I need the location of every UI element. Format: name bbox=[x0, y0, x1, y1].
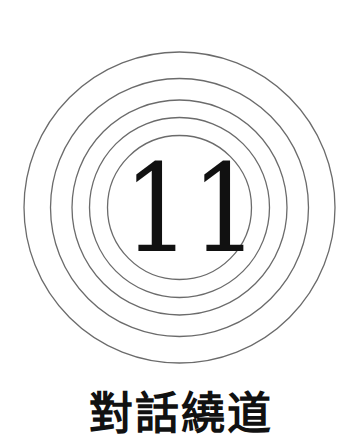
ring-4 bbox=[90, 118, 270, 298]
chapter-title: 對話繞道 bbox=[0, 389, 361, 439]
ring-3 bbox=[72, 100, 287, 315]
ring-5 bbox=[108, 136, 252, 280]
ring-1 bbox=[24, 52, 335, 363]
concentric-rings-graphic bbox=[0, 0, 361, 380]
